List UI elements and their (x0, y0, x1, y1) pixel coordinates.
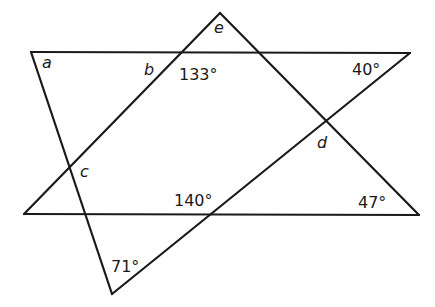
unknown-angle-c: c (80, 162, 89, 181)
geometry-diagram: abcde133°40°140°47°71° (0, 0, 435, 307)
left-descending-line (31, 52, 112, 294)
unknown-angle-d: d (317, 133, 328, 152)
bottom-line (24, 214, 419, 215)
top-line (31, 52, 410, 53)
angle-133-label: 133° (179, 65, 218, 84)
rising-line-to-apex (24, 13, 220, 214)
unknown-angle-e: e (214, 18, 224, 37)
angle-140-label: 140° (174, 191, 213, 210)
unknown-angle-a: a (42, 53, 52, 72)
angle-40-label: 40° (352, 60, 380, 79)
line-segments (24, 13, 419, 294)
unknown-angle-b: b (144, 60, 154, 79)
descending-line-from-apex (220, 13, 419, 215)
angle-71-label: 71° (111, 257, 139, 276)
rising-line-to-right (112, 53, 410, 294)
angle-47-label: 47° (358, 193, 386, 212)
